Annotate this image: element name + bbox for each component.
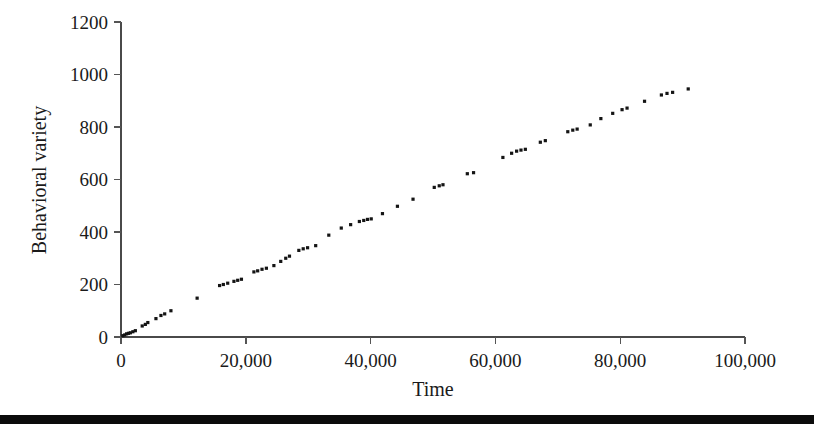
data-point — [539, 141, 542, 144]
data-point — [279, 260, 282, 263]
x-tick-label: 80,000 — [594, 350, 646, 371]
data-point — [665, 92, 668, 95]
data-point — [163, 312, 166, 315]
y-axis-tick-marks — [114, 22, 121, 337]
x-axis-tick-labels: 020,00040,00060,00080,000100,000 — [116, 350, 776, 371]
data-point — [252, 270, 255, 273]
y-axis-title: Behavioral variety — [28, 106, 51, 254]
x-tick-label: 20,000 — [220, 350, 272, 371]
y-tick-label: 200 — [80, 274, 109, 295]
data-point — [306, 246, 309, 249]
data-point — [340, 226, 343, 229]
data-point — [134, 329, 137, 332]
y-axis: 020040060080010001200 — [70, 12, 121, 348]
data-point — [366, 218, 369, 221]
data-point — [441, 183, 444, 186]
data-point — [146, 321, 149, 324]
data-point — [260, 268, 263, 271]
x-axis-title: Time — [412, 378, 454, 400]
data-point-markers — [121, 87, 690, 337]
data-point — [159, 314, 162, 317]
data-point — [566, 130, 569, 133]
data-point — [515, 150, 518, 153]
data-point — [314, 244, 317, 247]
x-tick-label: 60,000 — [469, 350, 521, 371]
data-point — [358, 220, 361, 223]
data-point — [284, 257, 287, 260]
data-point — [524, 148, 527, 151]
data-point — [396, 205, 399, 208]
data-point — [620, 108, 623, 111]
data-point — [611, 112, 614, 115]
data-point — [327, 234, 330, 237]
data-point — [141, 324, 144, 327]
data-point — [154, 317, 157, 320]
scatter-plot: 020040060080010001200 020,00040,00060,00… — [0, 0, 814, 402]
data-point — [671, 91, 674, 94]
x-tick-label: 0 — [116, 350, 126, 371]
data-point — [232, 280, 235, 283]
data-point — [519, 149, 522, 152]
data-point — [643, 100, 646, 103]
x-axis-tick-marks — [121, 337, 745, 344]
data-point — [381, 212, 384, 215]
data-point — [169, 309, 172, 312]
data-point — [256, 269, 259, 272]
bottom-rule-divider — [0, 415, 814, 424]
data-point — [349, 223, 352, 226]
x-axis: 020,00040,00060,00080,000100,000 — [116, 337, 776, 371]
data-point — [687, 87, 690, 90]
data-point — [362, 219, 365, 222]
y-tick-label: 0 — [99, 327, 109, 348]
data-point — [576, 128, 579, 131]
data-point — [226, 282, 229, 285]
y-tick-label: 1200 — [70, 12, 108, 33]
data-point — [288, 255, 291, 258]
y-tick-label: 800 — [80, 117, 109, 138]
chart-figure: 020040060080010001200 020,00040,00060,00… — [0, 0, 814, 402]
y-tick-label: 400 — [80, 222, 109, 243]
y-tick-label: 1000 — [70, 64, 108, 85]
data-point — [625, 107, 628, 110]
data-point — [196, 297, 199, 300]
figure-page: 020040060080010001200 020,00040,00060,00… — [0, 0, 814, 428]
data-point — [411, 198, 414, 201]
data-point — [466, 172, 469, 175]
data-point — [218, 284, 221, 287]
y-tick-label: 600 — [80, 169, 109, 190]
data-point — [265, 267, 268, 270]
data-point — [510, 152, 513, 155]
data-point — [438, 184, 441, 187]
y-axis-tick-labels: 020040060080010001200 — [70, 12, 108, 348]
data-point — [571, 129, 574, 132]
data-point — [589, 123, 592, 126]
data-point — [302, 247, 305, 250]
data-point — [501, 156, 504, 159]
data-point — [433, 186, 436, 189]
x-tick-label: 100,000 — [714, 350, 776, 371]
x-tick-label: 40,000 — [344, 350, 396, 371]
data-point — [236, 279, 239, 282]
data-point — [297, 249, 300, 252]
data-point — [370, 217, 373, 220]
data-point — [272, 264, 275, 267]
data-point — [222, 283, 225, 286]
data-point — [544, 139, 547, 142]
data-point — [240, 278, 243, 281]
data-point — [472, 171, 475, 174]
data-point — [660, 93, 663, 96]
data-point — [599, 117, 602, 120]
